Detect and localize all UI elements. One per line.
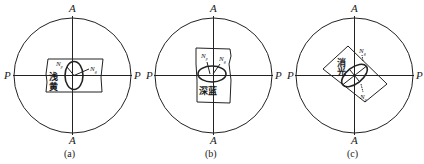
conoscopic-figure: Np Ng 浅 黄 A A P P (a) Np Ng 深蓝 A A P P (… [0,0,424,164]
ng-label: Ng [89,65,97,74]
extinction-text-2: 光 [336,66,346,77]
np-vector [207,62,210,74]
panel-a: Np Ng 浅 黄 A A P P (a) [3,2,141,160]
indicatrix-ellipse [198,66,226,82]
axis-label-left: P [3,69,11,81]
panel-c: Ng Np 消 光 A A P P (c) [286,2,423,160]
ng-label: Ng [358,47,366,56]
axis-label-bottom: A [350,134,358,146]
axis-label-left: P [286,69,294,81]
np-pointer [361,84,363,92]
axis-label-right: P [133,69,141,81]
axis-label-right: P [274,69,282,81]
panel-caption: (b) [205,148,217,160]
axis-label-right: P [415,69,423,81]
panel-caption: (c) [347,148,358,160]
np-label: Np [55,60,63,69]
axis-label-bottom: A [68,134,76,146]
panel-caption: (a) [64,148,75,160]
np-label: Np [359,93,367,102]
axis-label-bottom: A [209,134,217,146]
np-label: Np [200,52,208,61]
axis-label-top: A [209,2,217,14]
axis-label-top: A [68,2,76,14]
axis-label-left: P [145,69,153,81]
ng-label: Ng [218,55,226,64]
interference-color-text-1: 浅 [49,71,58,82]
interference-color-text-2: 黄 [49,81,58,92]
axis-label-top: A [350,2,358,14]
panel-b: Np Ng 深蓝 A A P P (b) [145,2,282,160]
interference-color-text: 深蓝 [199,85,217,96]
